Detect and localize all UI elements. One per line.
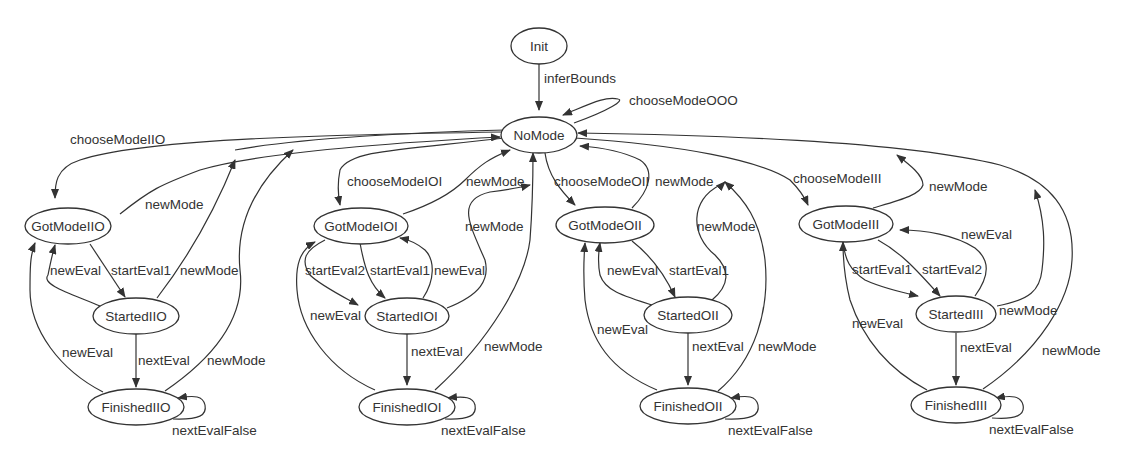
label-newmode-finishediio: newMode — [207, 353, 266, 368]
node-finishediio-label: FinishedIIO — [101, 400, 170, 415]
label-nexteval-iio: nextEval — [138, 353, 190, 368]
edge-labels: inferBounds chooseModeOOO chooseModeIIO … — [50, 71, 1101, 438]
node-finishediii: FinishedIII — [911, 387, 1001, 423]
label-neweval-startedoii: newEval — [607, 263, 658, 278]
node-nomode: NoMode — [501, 117, 577, 153]
label-newmode-startedoii: newMode — [697, 219, 756, 234]
label-nextevalfalse-iio: nextEvalFalse — [172, 423, 257, 438]
node-gotmodeiio: GotModeIIO — [25, 208, 111, 244]
label-choosemodeoii: chooseModeOII — [554, 174, 649, 189]
node-startediio-label: StartedIIO — [105, 309, 167, 324]
label-inferbounds: inferBounds — [544, 71, 616, 86]
edge-startedioi-nomode — [447, 185, 530, 308]
state-diagram: inferBounds chooseModeOOO chooseModeIIO … — [0, 0, 1125, 464]
node-gotmodeiii: GotModeIII — [799, 206, 893, 242]
label-nexteval-ioi: nextEval — [411, 344, 463, 359]
node-gotmodeoii-label: GotModeOII — [568, 218, 642, 233]
node-startedioi: StartedIOI — [365, 298, 449, 334]
label-newmode-startediio: newMode — [180, 263, 239, 278]
edge-startedoii-nomode — [697, 182, 726, 300]
label-starteval1-iio: startEval1 — [111, 263, 171, 278]
node-init-label: Init — [530, 39, 548, 54]
node-gotmodeioi: GotModeIOI — [314, 208, 408, 244]
label-nextevalfalse-oii: nextEvalFalse — [728, 423, 813, 438]
node-gotmodeiio-label: GotModeIIO — [31, 219, 105, 234]
label-neweval-finishedioi: newEval — [310, 308, 361, 323]
node-startedoii: StartedOII — [644, 297, 732, 333]
label-newmode-gotmodeioi: newMode — [466, 174, 525, 189]
edge-startediii-nomode — [997, 190, 1044, 306]
label-newmode-finishedioi: newMode — [484, 339, 543, 354]
label-neweval-startediio: newEval — [50, 263, 101, 278]
label-starteval1-iii: startEval1 — [852, 262, 912, 277]
label-neweval-finishediii: newEval — [852, 316, 903, 331]
node-startedioi-label: StartedIOI — [376, 309, 438, 324]
label-starteval2-ioi: startEval2 — [305, 263, 365, 278]
label-newmode-gotmodeiio: newMode — [145, 197, 204, 212]
node-init: Init — [511, 28, 567, 64]
label-neweval-startedioi: newEval — [434, 263, 485, 278]
label-choosemodeooo: chooseModeOOO — [629, 93, 738, 108]
label-starteval2-iii: startEval2 — [922, 262, 982, 277]
edge-nomode-self — [563, 98, 620, 123]
label-newmode-gotmodeoii: newMode — [655, 174, 714, 189]
label-neweval-finishedoii: newEval — [597, 322, 648, 337]
label-nextevalfalse-ioi: nextEvalFalse — [441, 423, 526, 438]
node-gotmodeioi-label: GotModeIOI — [324, 219, 398, 234]
node-nomode-label: NoMode — [513, 128, 564, 143]
label-neweval-finishediio: newEval — [62, 345, 113, 360]
label-newmode-startediii: newMode — [999, 303, 1058, 318]
node-startediii-label: StartedIII — [929, 307, 984, 322]
node-finishedoii: FinishedOII — [640, 388, 736, 424]
label-starteval1-oii: startEval1 — [669, 263, 729, 278]
node-finishediio: FinishedIIO — [88, 389, 184, 425]
node-finishedioi-label: FinishedIOI — [372, 400, 441, 415]
label-nextevalfalse-iii: nextEvalFalse — [989, 422, 1074, 437]
node-finishedoii-label: FinishedOII — [653, 399, 722, 414]
node-finishedioi: FinishedIOI — [359, 389, 455, 425]
node-startediio: StartedIIO — [93, 298, 179, 334]
label-nexteval-oii: nextEval — [692, 339, 744, 354]
label-newmode-gotmodeiii: newMode — [929, 179, 988, 194]
node-finishediii-label: FinishedIII — [925, 398, 987, 413]
label-newmode-finishediii: newMode — [1042, 343, 1101, 358]
node-startediii: StartedIII — [916, 296, 996, 332]
label-choosemodeiio: chooseModeIIO — [70, 132, 165, 147]
label-newmode-finishedoii: newMode — [758, 339, 817, 354]
label-neweval-startediii: newEval — [961, 227, 1012, 242]
node-gotmodeoii: GotModeOII — [556, 207, 654, 243]
label-newmode-startedioi: newMode — [465, 219, 524, 234]
edge-nomode-gotmodeiii — [575, 138, 808, 205]
node-startedoii-label: StartedOII — [657, 308, 719, 323]
label-choosemodeioi: chooseModeIOI — [347, 174, 442, 189]
node-gotmodeiii-label: GotModeIII — [813, 217, 880, 232]
label-starteval1-ioi: startEval1 — [370, 263, 430, 278]
label-nexteval-iii: nextEval — [960, 340, 1012, 355]
edge-finishedoii-nomode — [718, 182, 766, 391]
label-choosemodeiii: chooseModeIII — [793, 171, 882, 186]
